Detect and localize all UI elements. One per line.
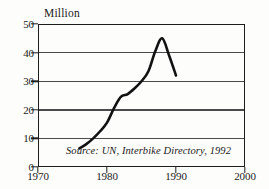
xtick-label-1970: 1970: [27, 170, 49, 182]
gridline-30: [39, 81, 244, 82]
y-axis: 50 40 30 20 10 0: [0, 0, 34, 189]
ytick-label-20: 20: [4, 104, 34, 116]
xtick-label-2000: 2000: [234, 170, 256, 182]
xtick-label-1990: 1990: [165, 170, 187, 182]
source-annotation: Source: UN, Interbike Directory, 1992: [66, 145, 231, 156]
ytick-label-40: 40: [4, 47, 34, 59]
xtick-label-1980: 1980: [96, 170, 118, 182]
ytick-label-10: 10: [4, 132, 34, 144]
ytick-label-30: 30: [4, 75, 34, 87]
gridline-20: [39, 109, 244, 110]
gridline-40: [39, 52, 244, 53]
ytick-label-50: 50: [4, 18, 34, 30]
gridline-10: [39, 138, 244, 139]
y-axis-title: Million: [44, 7, 80, 19]
chart-container: Million 50 40 30 20 10 0 1970 1980 1990 …: [0, 0, 269, 189]
